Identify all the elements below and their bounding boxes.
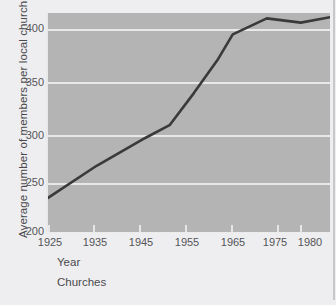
data-series-line <box>48 13 330 232</box>
x-tick-label: 1935 <box>83 236 107 248</box>
chart-figure: Average number of members per local chur… <box>0 0 336 305</box>
y-tick-label: 400 <box>16 23 44 34</box>
y-tick-label: 300 <box>16 130 44 141</box>
series-polyline <box>48 17 330 198</box>
x-tick-label: 1945 <box>129 236 153 248</box>
x-tick-label: 1965 <box>221 236 245 248</box>
x-tick-label: 1975 <box>263 236 287 248</box>
plot-area <box>48 13 330 232</box>
x-tick-label: 1955 <box>175 236 199 248</box>
x-tick-label: 1980 <box>298 236 322 248</box>
x-tick-label: 1925 <box>38 236 62 248</box>
y-axis-tick-labels: 400 350 300 250 200 <box>10 0 44 305</box>
y-tick-label: 250 <box>16 177 44 188</box>
x-axis-title: Year <box>57 256 80 268</box>
chart-caption: Churches <box>57 276 106 288</box>
x-axis-tick-labels: 1925 1935 1945 1955 1965 1975 1980 <box>0 236 336 252</box>
y-tick-label: 350 <box>16 77 44 88</box>
